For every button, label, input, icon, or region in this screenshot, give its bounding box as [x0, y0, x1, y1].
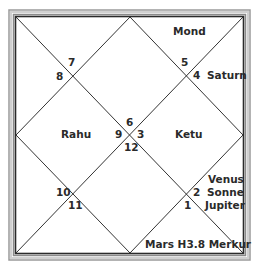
- house-number-4: 4: [193, 70, 200, 81]
- house-number-6: 6: [126, 117, 133, 128]
- house-number-11: 11: [68, 200, 83, 211]
- planet-label-rahu: Rahu: [61, 129, 91, 140]
- house-number-12: 12: [124, 142, 139, 153]
- house-number-9: 9: [115, 129, 122, 140]
- house-number-8: 8: [56, 71, 63, 82]
- house-number-5: 5: [181, 57, 188, 68]
- house-number-10: 10: [56, 187, 71, 198]
- house-number-3: 3: [137, 129, 144, 140]
- planet-label-mond: Mond: [173, 26, 206, 37]
- planet-label-venus: Venus: [208, 174, 244, 185]
- planet-label-sonne: Sonne: [207, 187, 244, 198]
- house-number-1: 1: [184, 200, 191, 211]
- planet-label-jupiter: Jupiter: [205, 200, 245, 211]
- planet-label-mars-h3-8-merkur: Mars H3.8 Merkur: [145, 239, 251, 250]
- house-number-2: 2: [193, 187, 200, 198]
- house-number-7: 7: [68, 57, 75, 68]
- planet-label-ketu: Ketu: [175, 129, 203, 140]
- horoscope-chart-frame: [0, 0, 256, 266]
- planet-label-saturn: Saturn: [207, 70, 247, 81]
